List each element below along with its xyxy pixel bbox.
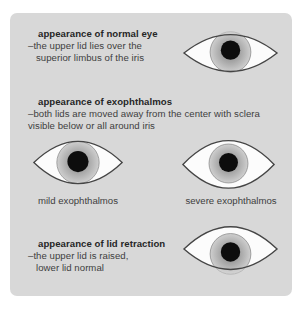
- page: appearance of normal eye –the upper lid …: [0, 0, 301, 311]
- description-line: –both lids are moved away from the cente…: [28, 108, 280, 120]
- section-exophthalmos-heading: appearance of exophthalmos: [38, 96, 280, 108]
- description-line: superior limbus of the iris: [28, 52, 158, 64]
- severe-exophthalmos-caption: severe exophthalmos: [171, 195, 291, 206]
- description-line: –the upper lid lies over the: [28, 40, 158, 52]
- mild-exophthalmos-caption: mild exophthalmos: [18, 195, 138, 206]
- description-line: visible below or all around iris: [28, 120, 280, 132]
- description-line: –the upper lid is raised,: [28, 250, 165, 262]
- section-exophthalmos-text: appearance of exophthalmos –both lids ar…: [28, 96, 280, 131]
- description-line: lower lid normal: [28, 262, 165, 274]
- section-lid-retraction-heading: appearance of lid retraction: [38, 238, 165, 250]
- lid-retraction-eye-illustration: [182, 219, 279, 279]
- normal-eye-illustration: [182, 23, 279, 83]
- severe-exophthalmos-eye-illustration: [181, 135, 276, 194]
- section-normal-eye-text: appearance of normal eye –the upper lid …: [28, 28, 158, 63]
- section-normal-eye-heading: appearance of normal eye: [38, 28, 158, 40]
- mild-exophthalmos-eye-illustration: [32, 134, 124, 191]
- section-lid-retraction-text: appearance of lid retraction –the upper …: [28, 238, 165, 273]
- diagram-card: appearance of normal eye –the upper lid …: [10, 13, 292, 296]
